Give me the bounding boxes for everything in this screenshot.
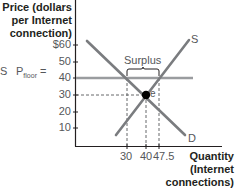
supply-label: S [191, 33, 198, 45]
surplus-label: Surplus [124, 54, 161, 66]
guide-lines [76, 78, 159, 146]
price-floor-label: Pfloor = [16, 65, 46, 79]
surplus-brace [127, 67, 159, 76]
x-tick-label: 40 [140, 150, 152, 162]
demand-label: D [188, 132, 196, 144]
y-tick-label: 20 [41, 105, 71, 117]
x-tick-label: 47.5 [153, 150, 174, 162]
left-cut-label: S [0, 65, 7, 77]
y-tick-label: 10 [41, 121, 71, 133]
equilibrium-label: e [150, 88, 156, 99]
equilibrium-point [142, 91, 150, 99]
x-tick-label: 30 [120, 150, 132, 162]
y-tick-label: $60 [41, 38, 71, 50]
price-floor-label-sub: floor [23, 72, 37, 79]
plot-area [0, 0, 236, 189]
y-tick-label: 30 [41, 88, 71, 100]
price-floor-label-eq: = [40, 65, 46, 77]
